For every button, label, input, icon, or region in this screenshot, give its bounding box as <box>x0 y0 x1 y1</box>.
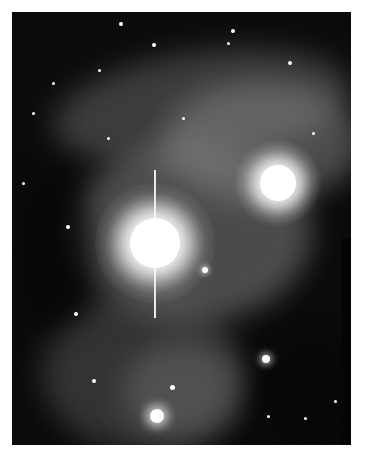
secondary-star <box>260 165 296 201</box>
star <box>32 112 35 115</box>
star <box>119 22 123 26</box>
star <box>231 29 235 33</box>
star <box>170 385 175 390</box>
star <box>74 312 78 316</box>
star <box>150 409 164 423</box>
star <box>202 267 208 273</box>
star <box>304 417 307 420</box>
star <box>98 69 101 72</box>
primary-star <box>130 218 180 268</box>
dark-lane <box>262 342 351 445</box>
star <box>107 137 110 140</box>
edge-strip <box>341 238 351 445</box>
star <box>262 355 270 363</box>
nebula-cloud <box>122 342 242 442</box>
star <box>267 415 270 418</box>
star <box>22 182 25 185</box>
star <box>227 42 230 45</box>
dark-lane <box>12 172 92 332</box>
star <box>182 117 185 120</box>
star <box>288 61 292 65</box>
star <box>312 132 315 135</box>
nebula-photograph <box>12 12 351 445</box>
star <box>66 225 70 229</box>
star <box>92 379 96 383</box>
star <box>334 400 337 403</box>
star <box>152 43 156 47</box>
star <box>52 82 55 85</box>
